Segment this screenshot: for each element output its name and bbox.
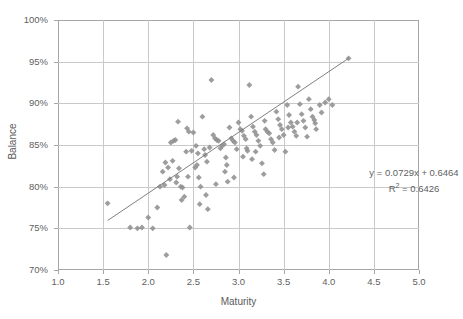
data-point: [173, 180, 179, 186]
data-point: [319, 110, 325, 116]
data-layer: [58, 20, 419, 270]
data-point: [195, 150, 201, 156]
data-point: [299, 111, 305, 117]
x-axis-tick-mark: [419, 270, 420, 274]
data-point: [317, 102, 323, 108]
data-point: [313, 126, 319, 132]
x-axis-tick-label: 2.5: [173, 276, 213, 287]
x-axis-title: Maturity: [58, 296, 419, 307]
data-point: [208, 77, 214, 83]
x-axis-tick-mark: [239, 270, 240, 274]
data-point: [189, 148, 195, 154]
data-point: [282, 149, 288, 155]
x-axis-tick-mark: [374, 270, 375, 274]
x-axis-tick-mark: [329, 270, 330, 274]
x-axis-tick-mark: [284, 270, 285, 274]
x-axis-tick-label: 1.5: [83, 276, 123, 287]
y-axis-tick-label: 70%: [0, 265, 48, 275]
data-point: [183, 149, 189, 155]
data-point: [134, 225, 140, 231]
data-point: [253, 149, 259, 155]
data-point: [175, 119, 181, 125]
data-point: [308, 106, 314, 112]
x-axis-tick-mark: [58, 270, 59, 274]
data-point: [197, 201, 203, 207]
data-point: [127, 225, 133, 231]
data-point: [297, 101, 303, 107]
r-squared-label: R: [389, 183, 396, 194]
x-axis-tick-label: 4.5: [354, 276, 394, 287]
data-point: [199, 114, 205, 120]
x-axis-tick-mark: [103, 270, 104, 274]
data-point: [301, 118, 307, 124]
data-point: [231, 175, 237, 181]
data-point: [240, 154, 246, 160]
data-point: [150, 225, 156, 231]
data-point: [205, 206, 211, 212]
data-point: [139, 225, 145, 231]
data-point: [286, 112, 292, 118]
data-point: [246, 82, 252, 88]
data-point: [302, 125, 308, 131]
r-squared-value: R2 = 0.6426: [358, 179, 463, 195]
data-point: [225, 179, 231, 185]
data-point: [223, 155, 229, 161]
data-point: [224, 162, 230, 168]
x-axis-tick-label: 5.0: [399, 276, 439, 287]
plot-area: y = 0.0729x + 0.6464 R2 = 0.6426: [58, 20, 419, 270]
trendline: [108, 58, 349, 220]
data-point: [201, 146, 207, 152]
x-axis-tick-mark: [193, 270, 194, 274]
data-point: [207, 145, 213, 151]
data-point: [160, 169, 166, 175]
data-point: [259, 160, 265, 166]
y-axis-tick-label: 90%: [0, 98, 48, 108]
data-point: [190, 130, 196, 136]
data-point: [306, 96, 312, 102]
data-point: [236, 120, 242, 126]
x-axis-tick-label: 2.0: [128, 276, 168, 287]
data-point: [185, 174, 191, 180]
r-squared-number: = 0.6426: [399, 183, 439, 194]
data-point: [273, 109, 279, 115]
data-point: [295, 84, 301, 90]
data-point: [176, 165, 182, 171]
data-point: [204, 159, 210, 165]
data-point: [187, 225, 193, 231]
x-axis-tick-label: 3.0: [219, 276, 259, 287]
data-point: [105, 200, 111, 206]
data-point: [285, 125, 291, 131]
data-point: [198, 184, 204, 190]
data-point: [213, 181, 219, 187]
y-axis-tick-label: 85%: [0, 140, 48, 150]
data-point: [255, 138, 261, 144]
data-point: [196, 175, 202, 181]
x-axis-tick-label: 4.0: [309, 276, 349, 287]
x-axis-tick-mark: [148, 270, 149, 274]
data-point: [193, 143, 199, 149]
y-axis-tick-label: 100%: [0, 15, 48, 25]
data-point: [249, 156, 255, 162]
data-point: [203, 192, 209, 198]
data-point: [284, 102, 290, 108]
data-point: [145, 215, 151, 221]
data-point: [162, 160, 168, 166]
regression-annotation: y = 0.0729x + 0.6464 R2 = 0.6426: [358, 166, 463, 195]
data-point: [257, 143, 263, 149]
data-point: [163, 252, 169, 258]
data-point: [154, 205, 160, 211]
data-point: [262, 118, 268, 124]
x-axis-tick-label: 1.0: [38, 276, 78, 287]
x-axis-tick-label: 3.5: [264, 276, 304, 287]
data-point: [329, 102, 335, 108]
data-point: [261, 171, 267, 177]
data-point: [222, 169, 228, 175]
regression-equation: y = 0.0729x + 0.6464: [358, 166, 463, 179]
data-point: [294, 120, 300, 126]
data-point: [234, 146, 240, 152]
y-axis-tick-label: 95%: [0, 57, 48, 67]
data-point: [248, 114, 254, 120]
data-point: [272, 147, 278, 153]
data-point: [170, 158, 176, 164]
